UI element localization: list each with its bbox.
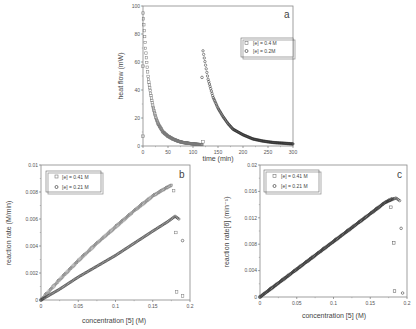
x-tick-label: 250 bbox=[264, 149, 273, 155]
legend-item-a-0: [e] = 0.4 M bbox=[253, 40, 277, 46]
data-points-b bbox=[40, 184, 184, 301]
data-points-c bbox=[259, 197, 404, 298]
y-tick-label: 100 bbox=[132, 3, 141, 9]
chart-panel-a: 050100150200250300020406080100 a [e] = 0… bbox=[117, 3, 297, 163]
y-tick-label: 0.004 bbox=[25, 243, 38, 249]
y-tick-label: 0.008 bbox=[244, 241, 257, 247]
y-axis-label-c: reaction rate[6] (min⁻¹) bbox=[223, 197, 231, 268]
panel-label-c: c bbox=[397, 169, 402, 180]
x-tick-label: 0.15 bbox=[365, 300, 375, 306]
data-points-a bbox=[142, 12, 294, 146]
x-tick-label: 0.05 bbox=[73, 303, 83, 309]
legend-item-c-1: [e] = 0.21 M bbox=[281, 183, 308, 189]
x-axis-label-a: time (min) bbox=[202, 155, 233, 163]
y-tick-label: 0.02 bbox=[247, 162, 257, 168]
x-tick-label: 0 bbox=[259, 300, 262, 306]
x-tick-label: 0.1 bbox=[112, 303, 119, 309]
y-tick-label: 20 bbox=[134, 115, 140, 121]
chart-panel-b: 00.050.10.150.200.0020.0040.0060.0080.01… bbox=[5, 162, 194, 325]
legend-item-c-0: [e] = 0.41 M bbox=[281, 173, 308, 179]
y-tick-label: 0.006 bbox=[25, 216, 38, 222]
x-tick-label: 0 bbox=[40, 303, 43, 309]
y-axis-label-b: reaction rate (M/min) bbox=[5, 201, 13, 266]
panel-label-b: b bbox=[179, 169, 185, 180]
figure: 050100150200250300020406080100 a [e] = 0… bbox=[0, 0, 416, 329]
legend-a: [e] = 0.4 M [e] = 0.2M bbox=[241, 38, 295, 59]
x-tick-label: 300 bbox=[289, 149, 298, 155]
x-tick-label: 0.15 bbox=[148, 303, 158, 309]
y-tick-label: 60 bbox=[134, 59, 140, 65]
legend-b: [e] = 0.41 M [e] = 0.21 M bbox=[46, 171, 103, 194]
y-tick-label: 80 bbox=[134, 31, 140, 37]
y-tick-label: 0.002 bbox=[25, 270, 38, 276]
axis-ticks-a: 050100150200250300020406080100 bbox=[132, 3, 298, 155]
x-tick-label: 0.05 bbox=[292, 300, 302, 306]
y-axis-label-a: heat flow (mW) bbox=[117, 52, 125, 99]
x-tick-label: 50 bbox=[165, 149, 171, 155]
x-tick-label: 0.2 bbox=[404, 300, 411, 306]
plot-frame-a bbox=[143, 6, 293, 146]
legend-item-a-1: [e] = 0.2M bbox=[253, 48, 275, 54]
y-tick-label: 0 bbox=[35, 297, 38, 303]
y-tick-label: 0.004 bbox=[244, 267, 257, 273]
x-axis-label-b: concentration [5] (M) bbox=[82, 317, 146, 325]
y-tick-label: 0.008 bbox=[25, 189, 38, 195]
x-tick-label: 100 bbox=[189, 149, 198, 155]
legend-c: [e] = 0.41 M [e] = 0.21 M bbox=[264, 170, 321, 194]
chart-panel-c: 00.050.10.150.200.0040.0080.0120.0160.02… bbox=[223, 162, 411, 320]
y-tick-label: 0.01 bbox=[28, 162, 38, 168]
x-tick-label: 0.1 bbox=[330, 300, 337, 306]
x-tick-label: 0.2 bbox=[187, 303, 194, 309]
x-tick-label: 200 bbox=[239, 149, 248, 155]
y-tick-label: 0 bbox=[254, 294, 257, 300]
y-tick-label: 0 bbox=[137, 143, 140, 149]
panel-label-a: a bbox=[284, 9, 290, 20]
y-tick-label: 40 bbox=[134, 87, 140, 93]
x-tick-label: 0 bbox=[142, 149, 145, 155]
legend-item-b-1: [e] = 0.21 M bbox=[62, 184, 89, 190]
y-tick-label: 0.012 bbox=[244, 215, 257, 221]
legend-item-b-0: [e] = 0.41 M bbox=[62, 174, 89, 180]
y-tick-label: 0.016 bbox=[244, 188, 257, 194]
x-axis-label-c: concentration [5] (M) bbox=[302, 312, 366, 320]
